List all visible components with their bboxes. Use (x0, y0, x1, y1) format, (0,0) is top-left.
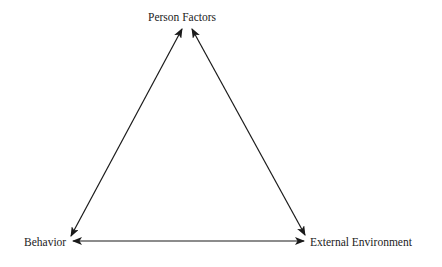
edge-person-behavior (71, 29, 182, 236)
node-behavior: Behavior (24, 237, 66, 249)
arrows-layer (0, 0, 442, 267)
triadic-diagram: Person Factors Behavior External Environ… (0, 0, 442, 267)
node-external-environment: External Environment (310, 237, 412, 249)
edge-person-environment (192, 29, 305, 235)
node-person-factors: Person Factors (148, 12, 216, 24)
